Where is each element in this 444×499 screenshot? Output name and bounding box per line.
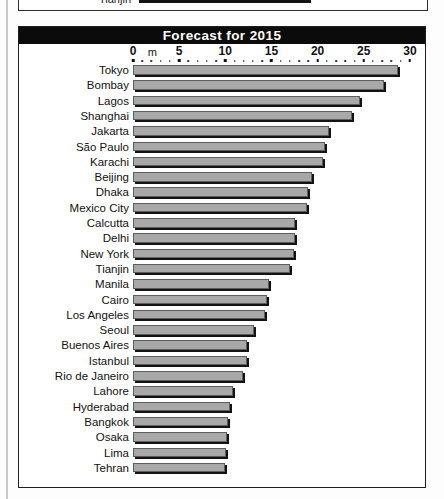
bar-category-label: Buenos Aires <box>19 339 129 352</box>
bar-row: Jakarta <box>19 125 425 140</box>
bar-category-label: Karachi <box>19 156 129 169</box>
bar-row: Los Angeles <box>19 309 425 324</box>
x-axis-minor-tick <box>261 60 263 62</box>
bar-category-label: Dhaka <box>19 186 129 199</box>
bar-category-label: Istanbul <box>19 355 129 368</box>
bar <box>133 80 384 90</box>
x-axis-minor-tick <box>252 60 254 62</box>
bar <box>133 402 230 412</box>
bar-category-label: Tokyo <box>19 64 129 77</box>
x-axis-major-tick <box>316 59 319 62</box>
bar-row: São Paulo <box>19 141 425 156</box>
x-axis-major-tick <box>224 59 227 62</box>
x-axis-major-tick <box>132 59 135 62</box>
bar-row: Lahore <box>19 385 425 400</box>
x-axis-minor-tick <box>289 60 291 62</box>
bar <box>133 142 325 152</box>
bar-row: Mexico City <box>19 202 425 217</box>
x-axis-unit-label: m <box>148 45 157 59</box>
bar-category-label: Tianjin <box>19 263 129 276</box>
bar-row: Manila <box>19 278 425 293</box>
bar-category-label: Hyderabad <box>19 401 129 414</box>
bar-row: New York <box>19 248 425 263</box>
bar-row: Hyderabad <box>19 401 425 416</box>
bar-row: Seoul <box>19 324 425 339</box>
x-axis-minor-tick <box>280 60 282 62</box>
x-axis-minor-tick <box>335 60 337 62</box>
chart-title: Forecast for 2015 <box>19 27 425 44</box>
chart-frame: Forecast for 2015 051015202530m TokyoBom… <box>18 26 426 488</box>
bar <box>133 65 398 75</box>
bar-row: Karachi <box>19 156 425 171</box>
x-axis-minor-tick <box>197 60 199 62</box>
bar-category-label: Los Angeles <box>19 309 129 322</box>
bar-row: Bombay <box>19 79 425 94</box>
bar <box>133 111 352 121</box>
bar-category-label: Lagos <box>19 95 129 108</box>
bar-category-label: Lahore <box>19 385 129 398</box>
bar-category-label: Bombay <box>19 79 129 92</box>
bar-row: Bangkok <box>19 416 425 431</box>
x-axis-major-tick <box>409 59 412 62</box>
bar-row: Dhaka <box>19 186 425 201</box>
x-axis-tick-label: 15 <box>265 44 278 58</box>
x-axis-major-tick <box>363 59 366 62</box>
bar-row: Calcutta <box>19 217 425 232</box>
bar <box>133 463 225 473</box>
x-axis-tick-label: 5 <box>176 44 183 58</box>
bar <box>133 157 323 167</box>
bar-category-label: Cairo <box>19 294 129 307</box>
bar-category-label: Delhi <box>19 232 129 245</box>
x-axis-tick-label: 20 <box>311 44 324 58</box>
x-axis-minor-tick <box>354 60 356 62</box>
x-axis-tick-label: 10 <box>219 44 232 58</box>
bar <box>133 249 294 259</box>
bar-row: Buenos Aires <box>19 339 425 354</box>
bar <box>133 233 295 243</box>
bar <box>133 448 226 458</box>
bar-category-label: Jakarta <box>19 125 129 138</box>
x-axis-minor-tick <box>206 60 208 62</box>
bar <box>133 340 247 350</box>
bar <box>133 264 290 274</box>
bar-row: Lima <box>19 447 425 462</box>
x-axis-minor-tick <box>188 60 190 62</box>
bar <box>133 356 247 366</box>
x-axis-major-tick <box>270 59 273 62</box>
bar-row: Tokyo <box>19 64 425 79</box>
bar <box>133 386 233 396</box>
bar-row: Osaka <box>19 431 425 446</box>
bar-category-label: São Paulo <box>19 141 129 154</box>
bar-row: Lagos <box>19 95 425 110</box>
bar <box>133 126 329 136</box>
bar-category-label: Calcutta <box>19 217 129 230</box>
bar <box>133 432 227 442</box>
bar-category-label: Mexico City <box>19 202 129 215</box>
x-axis-tick-label: 0 <box>130 44 137 58</box>
x-axis-minor-tick <box>151 60 153 62</box>
x-axis-minor-tick <box>243 60 245 62</box>
previous-chart-fragment-label: Tianjin <box>19 0 131 6</box>
bar-category-label: Seoul <box>19 324 129 337</box>
bar <box>133 218 295 228</box>
bar-category-label: Tehran <box>19 462 129 475</box>
bar <box>133 371 243 381</box>
bar-plot-area: TokyoBombayLagosShanghaiJakartaSão Paulo… <box>19 64 425 487</box>
x-axis-minor-tick <box>308 60 310 62</box>
bar-category-label: Manila <box>19 278 129 291</box>
bar-row: Cairo <box>19 294 425 309</box>
bar-category-label: New York <box>19 248 129 261</box>
bar-category-label: Rio de Janeiro <box>19 370 129 383</box>
x-axis-minor-tick <box>372 60 374 62</box>
x-axis-major-tick <box>178 59 181 62</box>
bar <box>133 203 307 213</box>
x-axis: 051015202530m <box>19 44 425 64</box>
bar <box>133 295 267 305</box>
bar-category-label: Bangkok <box>19 416 129 429</box>
bar-row: Delhi <box>19 232 425 247</box>
bar-row: Istanbul <box>19 355 425 370</box>
x-axis-minor-tick <box>234 60 236 62</box>
bar-category-label: Shanghai <box>19 110 129 123</box>
x-axis-minor-tick <box>215 60 217 62</box>
page-root: Tianjin Forecast for 2015 051015202530m … <box>0 0 444 499</box>
